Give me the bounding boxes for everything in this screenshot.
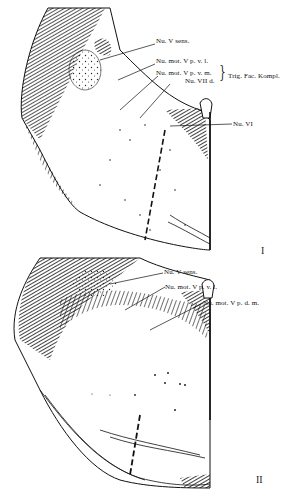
label-nu-vii-d-I: Nu. VII d.: [185, 77, 215, 85]
label-nu-mot-v-pdm-II: Nu. mot. V p. d. m.: [203, 299, 259, 307]
label-trig-fac-kompl: Trig. Fac. Kompl.: [228, 72, 280, 80]
label-nu-mot-v-pvl-II: Nu. mot. V p. v. l.: [165, 283, 217, 291]
label-nu-mot-v-pvm-I: Nu. mot. V p. v. m.: [156, 69, 212, 77]
label-nu-mot-v-pvl-I: Nu. mot. V p. v. l.: [156, 57, 208, 65]
section-I-drawing: [21, 8, 232, 250]
brace-icon: }: [219, 64, 225, 81]
section-numeral-II: II: [256, 474, 263, 485]
label-nu-v-sens-II: Nu. V sens.: [164, 268, 198, 276]
label-nu-v-sens-I: Nu. V sens.: [156, 37, 190, 45]
section-numeral-I: I: [261, 245, 264, 256]
label-nu-vi-I: Nu. VI: [233, 120, 253, 128]
section-II-drawing: [14, 258, 214, 488]
